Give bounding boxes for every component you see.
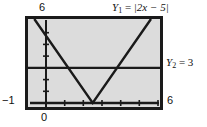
- y1-expression: |2x − 5|: [134, 1, 169, 13]
- y1-subscript: 1: [118, 6, 122, 15]
- y2-equation-label: Y2 = 3: [166, 56, 193, 72]
- y2-equals-sign: =: [179, 56, 185, 68]
- plot-svg: [25, 16, 163, 110]
- x-axis-min-label: 0: [41, 112, 47, 123]
- y1-equation-label: Y1 = |2x − 5|: [112, 1, 169, 17]
- y2-subscript: 2: [172, 61, 176, 70]
- x-axis-max-label: 6: [167, 95, 173, 106]
- graph-figure: 6 −1 0 6 Y1 = |2x − 5| Y2 = 3: [0, 0, 207, 127]
- plot-area: [25, 16, 163, 110]
- y1-equals-sign: =: [125, 1, 131, 13]
- y-axis-max-label: 6: [39, 2, 45, 13]
- y2-expression: 3: [188, 56, 194, 68]
- y-axis-min-label: −1: [2, 95, 15, 106]
